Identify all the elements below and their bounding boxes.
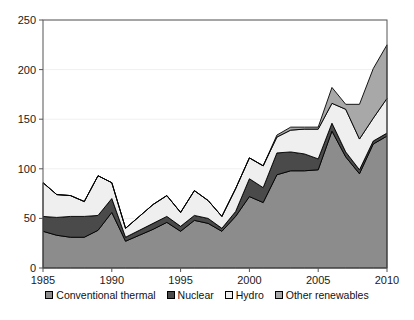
x-axis: 198519901995200020052010 <box>31 268 399 286</box>
x-tick-label-1995: 1995 <box>168 274 192 286</box>
y-tick-label-100: 100 <box>18 163 36 175</box>
x-tick-label-2005: 2005 <box>306 274 330 286</box>
legend-swatch-icon-1 <box>167 291 175 299</box>
y-tick-label-250: 250 <box>18 14 36 26</box>
y-axis: 050100150200250 <box>18 14 43 274</box>
stacked-area-chart: 050100150200250 198519901995200020052010… <box>0 0 414 320</box>
legend-swatch-icon-3 <box>275 291 283 299</box>
y-tick-label-0: 0 <box>30 262 36 274</box>
legend-item-0[interactable]: Conventional thermal <box>45 290 155 301</box>
x-tick-label-2010: 2010 <box>375 274 399 286</box>
y-tick-label-150: 150 <box>18 113 36 125</box>
legend-label-0: Conventional thermal <box>56 290 155 301</box>
y-tick-label-50: 50 <box>24 212 36 224</box>
x-tick-label-2000: 2000 <box>237 274 261 286</box>
chart-legend: Conventional thermalNuclearHydroOther re… <box>0 290 414 301</box>
legend-label-1: Nuclear <box>178 290 214 301</box>
legend-item-3[interactable]: Other renewables <box>275 290 369 301</box>
legend-swatch-icon-0 <box>45 291 53 299</box>
x-tick-label-1990: 1990 <box>100 274 124 286</box>
legend-label-3: Other renewables <box>286 290 369 301</box>
legend-item-1[interactable]: Nuclear <box>167 290 214 301</box>
x-tick-label-1985: 1985 <box>31 274 55 286</box>
legend-label-2: Hydro <box>236 290 264 301</box>
y-tick-label-200: 200 <box>18 64 36 76</box>
chart-plot-area: 050100150200250 198519901995200020052010 <box>0 0 414 320</box>
legend-item-2[interactable]: Hydro <box>225 290 264 301</box>
legend-swatch-icon-2 <box>225 291 233 299</box>
